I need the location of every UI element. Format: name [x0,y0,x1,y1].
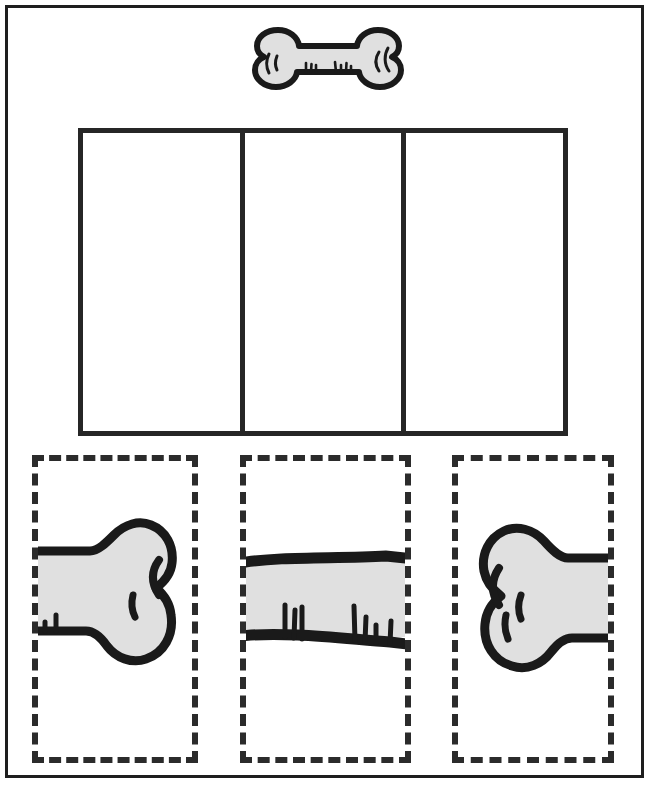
bone-right-end-icon [452,455,614,763]
bone-left-end-icon [32,455,198,763]
cutout-piece-right[interactable] [452,455,614,763]
bone-left-end-path [32,523,172,661]
bone-shaft-fill [240,559,411,637]
answer-cell-right[interactable] [401,133,563,431]
cutout-piece-middle[interactable] [240,455,411,763]
answer-cell-middle[interactable] [240,133,402,431]
bone-shaft-icon [240,455,411,763]
worksheet-page [0,0,651,788]
bone-knob-crease-inner [132,595,135,617]
bone-right-end-path [483,528,614,667]
bone-icon [244,22,412,108]
bone-scratch-marks [613,613,614,638]
assembly-answer-box[interactable] [78,128,568,436]
answer-cell-left[interactable] [83,133,240,431]
bone-shaft-image [240,455,411,763]
cutout-piece-left[interactable] [32,455,198,763]
reference-bone-image [244,22,412,108]
bone-left-end-image [32,455,198,763]
bone-right-end-image [452,455,614,763]
